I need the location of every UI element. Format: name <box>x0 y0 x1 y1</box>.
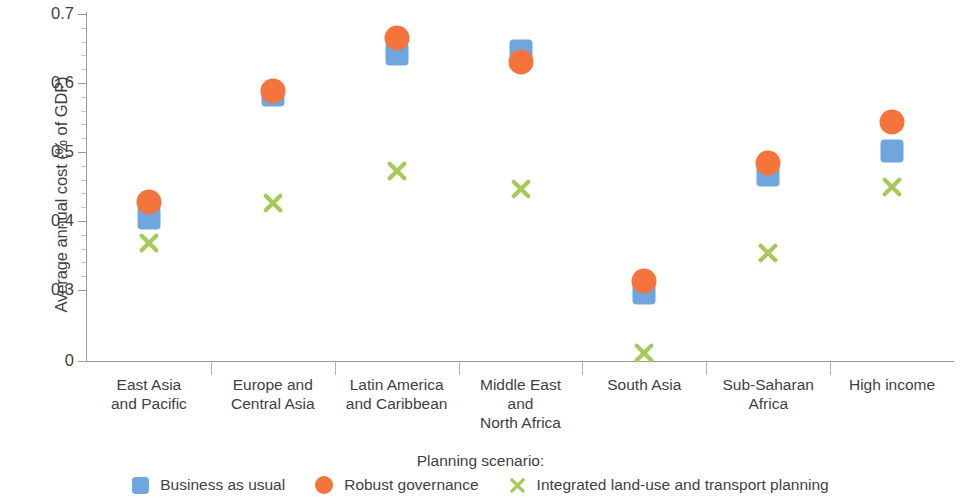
y-minor-tick <box>81 166 86 167</box>
y-minor-tick <box>81 180 86 181</box>
data-point-x <box>633 342 655 364</box>
y-tick-label: 0.3 <box>14 280 74 299</box>
y-tick-label: 0 <box>14 351 74 370</box>
data-point-x <box>757 242 779 264</box>
category-label-line: Middle East <box>459 375 583 394</box>
data-point-circle <box>136 189 161 214</box>
data-point-x <box>386 160 408 182</box>
data-point-circle <box>880 110 905 135</box>
y-tick-mark <box>78 14 87 15</box>
data-point-x <box>510 178 532 200</box>
category-separator <box>211 362 212 375</box>
legend-item[interactable]: Integrated land-use and transport planni… <box>509 476 829 494</box>
y-minor-tick <box>81 138 86 139</box>
data-point-square <box>881 139 904 162</box>
legend-circle-icon <box>315 476 333 494</box>
y-tick-label: 0.7 <box>14 4 74 23</box>
y-minor-tick <box>81 276 86 277</box>
x-axis-category-label: Middle EastandNorth Africa <box>459 375 583 432</box>
y-tick-mark <box>78 221 87 222</box>
category-label-line: Sub-Saharan <box>706 375 830 394</box>
y-tick-mark <box>78 290 87 291</box>
y-tick-label: 0.6 <box>14 73 74 92</box>
y-minor-tick <box>81 193 86 194</box>
y-minor-tick <box>81 207 86 208</box>
category-label-line: East Asia <box>87 375 211 394</box>
x-axis-category-label: High income <box>830 375 954 394</box>
category-label-line: Latin America <box>335 375 459 394</box>
y-tick-label: 0.5 <box>14 142 74 161</box>
category-label-line: North Africa <box>459 413 583 432</box>
x-axis-category-label: South Asia <box>582 375 706 394</box>
data-point-x <box>138 232 160 254</box>
legend-title: Planning scenario: <box>0 452 961 470</box>
x-axis-category-label: Europe andCentral Asia <box>211 375 335 413</box>
category-label-line: High income <box>830 375 954 394</box>
y-minor-tick <box>81 69 86 70</box>
x-axis-category-label: Sub-SaharanAfrica <box>706 375 830 413</box>
x-axis-category-label: Latin Americaand Caribbean <box>335 375 459 413</box>
y-minor-tick <box>81 262 86 263</box>
legend-item[interactable]: Robust governance <box>315 476 478 494</box>
category-label-line: and Caribbean <box>335 394 459 413</box>
category-separator <box>459 362 460 375</box>
y-tick-mark <box>78 83 87 84</box>
category-separator <box>335 362 336 375</box>
data-point-x <box>262 192 284 214</box>
category-label-line: Europe and <box>211 375 335 394</box>
legend-item[interactable]: Business as usual <box>132 476 285 494</box>
legend-item-label: Business as usual <box>160 476 285 494</box>
y-axis-line <box>86 12 87 362</box>
y-tick-mark <box>78 152 87 153</box>
legend-x-icon <box>509 477 526 494</box>
category-label-line: South Asia <box>582 375 706 394</box>
chart-container: Average annual cost (% of GDP) 0.70.60.5… <box>0 0 961 499</box>
data-point-x <box>881 176 903 198</box>
y-minor-tick <box>81 97 86 98</box>
data-point-circle <box>756 151 781 176</box>
y-minor-tick <box>81 235 86 236</box>
y-minor-tick <box>81 124 86 125</box>
legend-item-label: Robust governance <box>344 476 478 494</box>
category-separator <box>582 362 583 375</box>
legend-item-label: Integrated land-use and transport planni… <box>537 476 829 494</box>
category-label-line: and <box>459 394 583 413</box>
y-tick-mark <box>78 361 87 362</box>
y-minor-tick <box>81 28 86 29</box>
y-minor-tick <box>81 249 86 250</box>
data-point-circle <box>384 26 409 51</box>
legend-square-icon <box>132 477 149 494</box>
category-label-line: Central Asia <box>211 394 335 413</box>
data-point-circle <box>508 50 533 75</box>
x-axis-line <box>86 361 954 362</box>
category-separator <box>830 362 831 375</box>
category-label-line: and Pacific <box>87 394 211 413</box>
y-minor-tick <box>81 55 86 56</box>
data-point-circle <box>632 269 657 294</box>
y-minor-tick <box>81 42 86 43</box>
category-separator <box>706 362 707 375</box>
y-minor-tick <box>81 111 86 112</box>
legend: Business as usualRobust governanceIntegr… <box>0 476 961 494</box>
data-point-circle <box>260 78 285 103</box>
x-axis-category-label: East Asiaand Pacific <box>87 375 211 413</box>
y-tick-label: 0.4 <box>14 211 74 230</box>
category-label-line: Africa <box>706 394 830 413</box>
